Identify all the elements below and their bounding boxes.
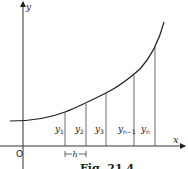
figure-caption: Fig. 21.4 [80, 162, 134, 169]
x-axis-label: x [173, 134, 179, 145]
ordinate-label-y3: y 3 [94, 124, 104, 135]
ordinate-label-y2: y 2 [74, 124, 84, 135]
function-curve [10, 22, 164, 121]
origin-label: O [16, 149, 23, 159]
ordinate-label-y1: y 1 [54, 124, 64, 135]
svg-text:3: 3 [100, 128, 104, 135]
svg-text:n−1: n−1 [123, 128, 136, 135]
step-h-marker: h [65, 150, 86, 159]
svg-text:n: n [146, 128, 150, 135]
svg-text:2: 2 [80, 128, 84, 135]
figure-canvas: y x O y 1 y 2 y 3 y n−1 y n h Fig. 21.4 [0, 0, 188, 169]
ordinate-label-yn-1: y n−1 [117, 124, 136, 135]
ordinate-label-yn: y n [140, 124, 150, 135]
step-h-label: h [73, 150, 78, 159]
y-axis-label: y [25, 2, 32, 12]
svg-text:1: 1 [60, 128, 64, 135]
